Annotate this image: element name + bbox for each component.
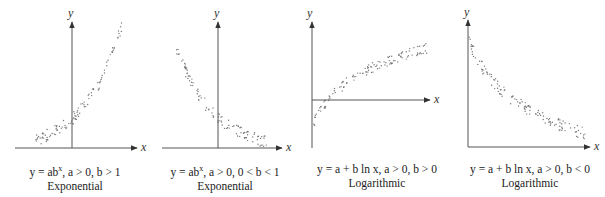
- scatter-points: [176, 49, 267, 148]
- y-axis-label: y: [213, 6, 220, 20]
- y-axis-label: y: [306, 6, 313, 20]
- model-name: Logarithmic: [302, 176, 452, 190]
- equation: y = abx, a > 0, b > 1: [0, 162, 150, 179]
- x-axis-label: x: [140, 140, 147, 154]
- panel-logarithmic-decay: x y: [463, 5, 600, 153]
- panel-exponential-growth: x y: [15, 6, 147, 154]
- y-axis-label: y: [463, 5, 470, 19]
- model-name: Exponential: [0, 179, 150, 193]
- y-axis-label: y: [67, 6, 74, 20]
- scatter-points: [35, 22, 122, 144]
- caption-panel-2: y = abx, a > 0, 0 < b < 1 Exponential: [150, 162, 300, 193]
- equation: y = a + b ln x, a > 0, b > 0: [302, 162, 452, 176]
- caption-panel-4: y = a + b ln x, a > 0, b < 0 Logarithmic: [455, 162, 605, 190]
- model-name: Logarithmic: [455, 176, 605, 190]
- equation: y = abx, a > 0, 0 < b < 1: [150, 162, 300, 179]
- equation: y = a + b ln x, a > 0, b < 0: [455, 162, 605, 176]
- scatter-points: [313, 43, 427, 126]
- x-axis-label: x: [285, 140, 292, 154]
- scatter-points: [468, 37, 585, 140]
- panel-logarithmic-growth: x y: [306, 6, 440, 148]
- x-axis-label: x: [593, 139, 600, 153]
- caption-panel-3: y = a + b ln x, a > 0, b > 0 Logarithmic: [302, 162, 452, 190]
- caption-panel-1: y = abx, a > 0, b > 1 Exponential: [0, 162, 150, 193]
- model-name: Exponential: [150, 179, 300, 193]
- panel-exponential-decay: x y: [162, 6, 292, 154]
- x-axis-label: x: [433, 92, 440, 106]
